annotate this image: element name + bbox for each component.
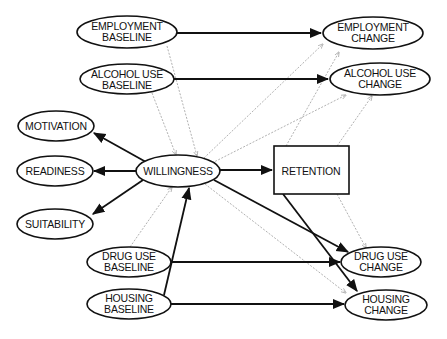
edge-retention-to-housing-change <box>283 194 357 291</box>
node-label: BASELINE <box>104 303 154 315</box>
node-employment-change: EMPLOYMENT CHANGE <box>323 17 423 49</box>
edge-retention-to-employment-change <box>286 52 339 146</box>
edge-housing-baseline-to-willingness <box>164 188 189 295</box>
node-employment-baseline: EMPLOYMENT BASELINE <box>77 16 177 48</box>
node-label: SUITABILITY <box>25 218 85 230</box>
edge-willingness-to-motivation <box>94 133 146 162</box>
node-housing-baseline: HOUSING BASELINE <box>87 289 171 319</box>
edge-retention-to-alcohol-change <box>337 96 372 146</box>
node-label: WILLINGNESS <box>143 165 213 177</box>
node-willingness: WILLINGNESS <box>136 155 220 187</box>
node-suitability: SUITABILITY <box>17 209 93 239</box>
node-label: CHANGE <box>364 304 408 316</box>
node-drug-use-change: DRUG USE CHANGE <box>341 247 421 277</box>
node-motivation: MOTIVATION <box>18 111 94 141</box>
edge-employment-baseline-to-willingness <box>167 46 197 156</box>
node-label: BASELINE <box>102 79 152 91</box>
edge-willingness-to-employment-change <box>204 44 323 158</box>
edge-willingness-to-suitability <box>93 180 143 214</box>
node-label: RETENTION <box>282 165 341 177</box>
node-label: MOTIVATION <box>25 120 87 132</box>
edge-drug-baseline-to-willingness <box>130 187 172 247</box>
node-housing-change: HOUSING CHANGE <box>345 290 427 320</box>
node-drug-use-baseline: DRUG USE BASELINE <box>87 247 171 277</box>
edge-alcohol-baseline-to-willingness <box>152 93 176 155</box>
node-label: READINESS <box>26 165 85 177</box>
node-alcohol-use-baseline: ALCOHOL USE BASELINE <box>80 64 174 94</box>
node-label: BASELINE <box>102 31 152 43</box>
node-alcohol-use-change: ALCOHOL USE CHANGE <box>330 63 430 95</box>
node-label: CHANGE <box>351 32 395 44</box>
node-label: CHANGE <box>358 78 402 90</box>
node-label: CHANGE <box>359 261 403 273</box>
path-diagram: EMPLOYMENT BASELINE ALCOHOL USE BASELINE… <box>0 0 447 339</box>
edge-retention-to-drug-change <box>337 194 366 248</box>
node-label: BASELINE <box>104 261 154 273</box>
node-readiness: READINESS <box>17 156 93 186</box>
node-retention: RETENTION <box>274 146 349 194</box>
edge-willingness-to-housing-change <box>205 184 346 293</box>
